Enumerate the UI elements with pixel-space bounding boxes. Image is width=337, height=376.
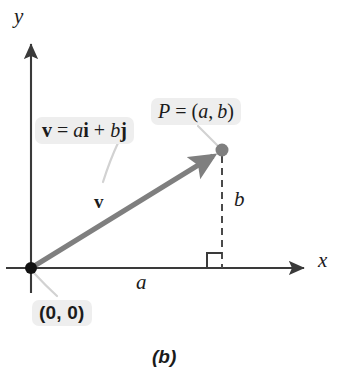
leader-line-origin-label (34, 273, 57, 296)
origin-label: (0, 0) (32, 300, 92, 326)
x-axis-label: x (318, 250, 327, 271)
horizontal-leg-label: a (136, 272, 147, 293)
vector-diagram-figure: y x P=(a,b) v=ai+bj v a b (0, 0) (b) (0, 0, 337, 376)
vector-equation-i-unit: i (83, 119, 89, 141)
vector-equation-plus: + (94, 119, 105, 141)
point-p-label-prefix: P (158, 100, 170, 122)
point-p-label-y-component: b (217, 100, 227, 122)
vector-equation-equals: = (57, 119, 68, 141)
point-p-label-close-paren: ) (227, 100, 234, 122)
figure-caption: (b) (152, 347, 176, 366)
leader-line-point-label (198, 126, 219, 147)
point-p-label: P=(a,b) (151, 98, 241, 125)
right-angle-marker (207, 253, 222, 268)
vector-equation-a-scalar: a (73, 119, 83, 141)
point-p-label-comma: , (208, 100, 213, 122)
point-p-dot (216, 144, 229, 157)
y-axis-label: y (14, 6, 23, 27)
vertical-leg-label: b (234, 189, 245, 210)
leader-line-vector-equation (103, 143, 118, 182)
point-p-label-equals: = (175, 100, 186, 122)
point-p-label-x-component: a (198, 100, 208, 122)
vector-arrow (31, 156, 213, 268)
vector-equation-b-scalar: b (110, 119, 120, 141)
vector-equation-j-unit: j (120, 119, 127, 141)
origin-dot (25, 262, 37, 274)
vector-equation-v: v (42, 119, 52, 141)
vector-equation-label: v=ai+bj (35, 117, 134, 144)
vector-name-label: v (94, 192, 104, 211)
